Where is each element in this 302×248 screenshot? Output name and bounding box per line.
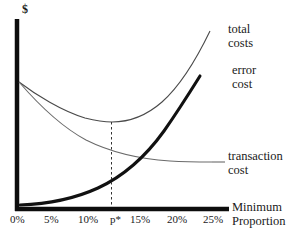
series-total-costs-curve bbox=[19, 31, 210, 122]
series-label-transaction-cost: transaction cost bbox=[228, 149, 283, 177]
series-label-transaction-cost-line1: transaction bbox=[228, 149, 283, 163]
series-label-error-cost-line2: cost bbox=[232, 77, 256, 91]
series-label-error-cost-line1: error bbox=[232, 63, 256, 77]
series-label-error-cost: error cost bbox=[232, 63, 256, 91]
x-axis-title-line1: Minimum bbox=[232, 201, 285, 215]
x-tick-6: 25% bbox=[203, 213, 223, 225]
series-label-total-costs-line2: costs bbox=[228, 36, 253, 50]
x-tick-1: 5% bbox=[44, 213, 59, 225]
series-label-total-costs-line1: total bbox=[228, 22, 253, 36]
x-tick-optimum: p* bbox=[110, 213, 121, 225]
x-axis-title: Minimum Proportion bbox=[232, 201, 285, 228]
series-label-total-costs: total costs bbox=[228, 22, 253, 50]
series-label-transaction-cost-line2: cost bbox=[228, 163, 283, 177]
x-tick-2: 10% bbox=[78, 213, 98, 225]
x-tick-5: 20% bbox=[167, 213, 187, 225]
x-axis-title-line2: Proportion bbox=[232, 215, 285, 229]
chart-container: $ 0% 5% 10% p* 15% 20% 25% Minimum Propo… bbox=[0, 0, 302, 248]
x-tick-4: 15% bbox=[130, 213, 150, 225]
series-error-cost-curve bbox=[20, 76, 200, 205]
x-tick-0: 0% bbox=[10, 213, 25, 225]
y-axis-title: $ bbox=[22, 2, 28, 17]
